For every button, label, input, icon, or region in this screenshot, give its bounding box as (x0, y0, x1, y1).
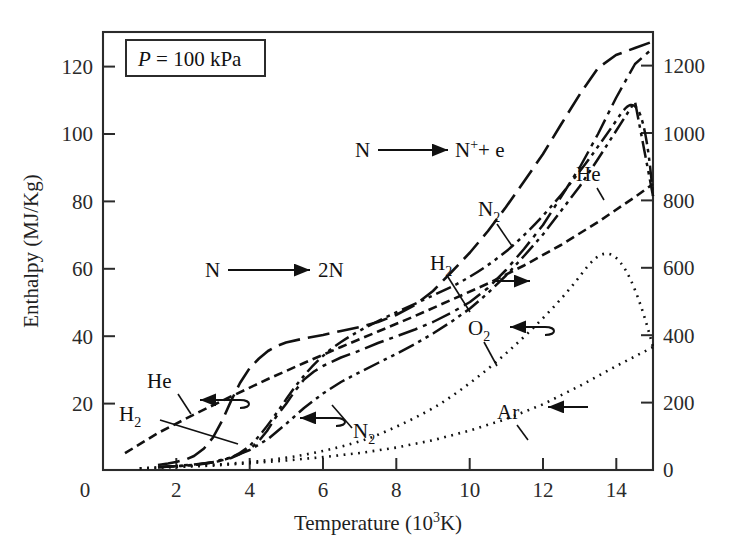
curve-h2 (158, 42, 653, 466)
label-ar: Ar (497, 400, 528, 440)
ar-leader (517, 425, 528, 440)
x-axis-tick-labels: 0 2 4 6 8 10 12 14 (80, 478, 628, 502)
he-left-axis-arrow (200, 400, 249, 408)
pressure-annotation: P = 100 kPa (126, 40, 265, 76)
curve-he (125, 184, 653, 453)
right-axis-tick-labels: 0 200 400 600 800 1000 1200 (663, 54, 705, 482)
ar-text: Ar (497, 400, 519, 424)
label-he-right: He (576, 162, 604, 200)
he-left-text: He (147, 369, 172, 393)
ytick-right-200: 200 (663, 391, 695, 415)
h2-left-leader (160, 420, 238, 444)
ytick-20: 20 (72, 392, 93, 416)
curve-o2-visible (158, 102, 653, 468)
ytick-40: 40 (72, 325, 93, 349)
ytick-60: 60 (72, 257, 93, 281)
left-axis-tick-labels: 20 40 60 80 100 120 (62, 55, 94, 416)
ytick-right-1000: 1000 (663, 122, 705, 146)
o2-left-axis-arrow (510, 327, 554, 335)
xtick-12: 12 (533, 478, 554, 502)
o2-text: O2 (468, 316, 490, 344)
o2-leader (484, 342, 497, 366)
ionization-annotation: N N++ e (355, 137, 505, 162)
label-he-left: He (147, 369, 191, 414)
label-o2: O2 (468, 316, 497, 366)
he-right-text: He (576, 162, 601, 186)
o2-left-arrow-hook (545, 327, 554, 335)
n2-left-axis-arrow (300, 418, 345, 426)
ytick-100: 100 (62, 122, 94, 146)
xtick-4: 4 (244, 478, 255, 502)
n2-left-arrow-hook (336, 418, 345, 426)
y-axis-title: Enthalpy (MJ/Kg) (19, 174, 43, 327)
x-axis-ticks (103, 458, 616, 470)
dissociation-left-label: N (205, 258, 220, 282)
dissociation-right-label: 2N (318, 258, 344, 282)
ytick-120: 120 (62, 55, 94, 79)
chart-svg: 20 40 60 80 100 120 0 200 400 600 800 10… (0, 0, 734, 556)
curve-n2-lower (158, 48, 653, 467)
n2-lower-text: N2 (353, 419, 375, 447)
left-axis-ticks (103, 67, 115, 404)
curve-ar (140, 254, 653, 469)
h2-mid-leader (448, 277, 470, 312)
he-right-leader (597, 188, 604, 200)
xtick-8: 8 (391, 478, 402, 502)
ionization-right-label: N++ e (455, 137, 505, 162)
he-left-leader (178, 394, 191, 414)
dissociation-annotation: N 2N (205, 258, 344, 282)
xtick-10: 10 (459, 478, 480, 502)
ytick-right-600: 600 (663, 256, 695, 280)
n2-upper-text: N2 (478, 197, 500, 225)
xtick-0: 0 (80, 478, 91, 502)
figure-container: 20 40 60 80 100 120 0 200 400 600 800 10… (0, 0, 734, 556)
ionization-left-label: N (355, 138, 370, 162)
curve-o2 (158, 105, 653, 467)
ytick-right-400: 400 (663, 324, 695, 348)
x-axis-title: Temperature (103K) (294, 510, 462, 535)
ytick-right-0: 0 (663, 458, 674, 482)
xtick-2: 2 (171, 478, 182, 502)
xtick-14: 14 (606, 478, 628, 502)
h2-mid-text: H2 (430, 251, 452, 279)
right-axis-ticks (641, 66, 653, 470)
ytick-right-800: 800 (663, 189, 695, 213)
pressure-box-label: P = 100 kPa (137, 47, 242, 71)
ytick-right-1200: 1200 (663, 54, 705, 78)
xtick-6: 6 (318, 478, 329, 502)
n2-upper-leader (497, 224, 512, 246)
ytick-80: 80 (72, 190, 93, 214)
he-left-arrow-hook (240, 400, 249, 408)
h2-left-text: H2 (119, 402, 141, 430)
